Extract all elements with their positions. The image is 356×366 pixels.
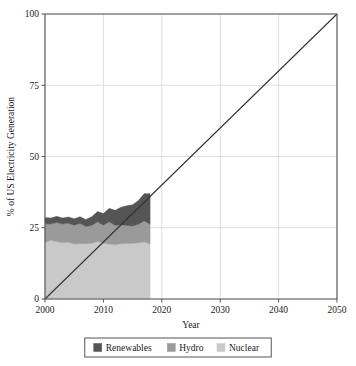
x-axis-title: Year <box>182 320 200 330</box>
x-tick-label: 2020 <box>152 305 171 315</box>
legend-label-renewables: Renewables <box>106 343 152 353</box>
x-tick-label: 2030 <box>211 305 230 315</box>
legend-swatch-hydro <box>167 344 175 352</box>
chart-legend: RenewablesHydroNuclear <box>85 338 272 357</box>
x-tick-label: 2010 <box>94 305 113 315</box>
area-band-nuclear <box>45 240 150 299</box>
y-axis-title: % of US Electricity Generation <box>6 97 16 216</box>
y-tick-label: 0 <box>34 294 39 304</box>
legend-swatch-renewables <box>94 344 102 352</box>
x-tick-label: 2000 <box>36 305 55 315</box>
stacked-area-chart: 0255075100 200020102020203020402050 % of… <box>0 0 356 366</box>
y-tick-label: 25 <box>30 223 40 233</box>
legend-swatch-nuclear <box>217 344 225 352</box>
y-tick-label: 50 <box>30 152 40 162</box>
legend-label-hydro: Hydro <box>179 343 204 353</box>
chart-figure: 0255075100 200020102020203020402050 % of… <box>0 0 356 366</box>
y-tick-label: 100 <box>25 9 40 19</box>
y-tick-label: 75 <box>30 81 40 91</box>
x-tick-label: 2040 <box>269 305 288 315</box>
x-tick-label: 2050 <box>328 305 347 315</box>
legend-label-nuclear: Nuclear <box>229 343 260 353</box>
